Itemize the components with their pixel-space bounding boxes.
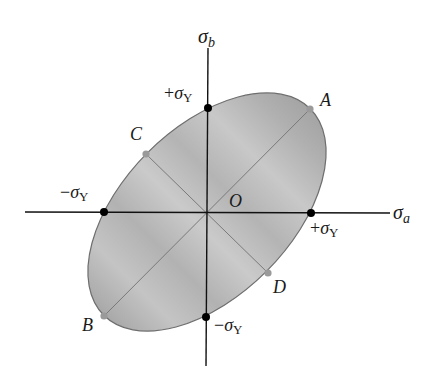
point-A-dot: [306, 105, 313, 112]
neg-x-intercept-dot: [100, 208, 108, 216]
pos-y-intercept-label: +σY: [164, 83, 193, 105]
x-axis-label: σa: [393, 201, 410, 226]
point-B-label: B: [82, 315, 93, 335]
pos-y-intercept-dot: [204, 104, 212, 112]
neg-x-intercept-label: −σY: [60, 182, 89, 204]
neg-y-intercept-dot: [202, 313, 210, 321]
neg-y-intercept-label: −σY: [214, 315, 243, 337]
origin-label: O: [229, 191, 242, 211]
point-B-dot: [100, 312, 107, 319]
point-A-label: A: [319, 90, 332, 110]
pos-x-intercept-dot: [307, 209, 315, 217]
pos-x-intercept-label: +σY: [310, 218, 339, 240]
yield-ellipse-diagram: σb σa O +σY −σY +σY −σY A B C D: [0, 0, 436, 374]
point-D-dot: [264, 269, 271, 276]
point-C-label: C: [130, 124, 143, 144]
point-D-label: D: [272, 277, 286, 297]
y-axis-label: σb: [198, 25, 215, 50]
point-C-dot: [142, 150, 149, 157]
